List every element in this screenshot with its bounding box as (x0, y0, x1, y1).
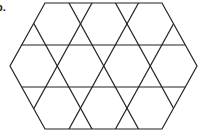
hexagon-lattice-diagram (0, 0, 202, 133)
diagonal-line-down-left (102, 0, 199, 133)
diagonal-line-down-left (9, 0, 106, 133)
diagonal-line-down-left (55, 0, 152, 133)
